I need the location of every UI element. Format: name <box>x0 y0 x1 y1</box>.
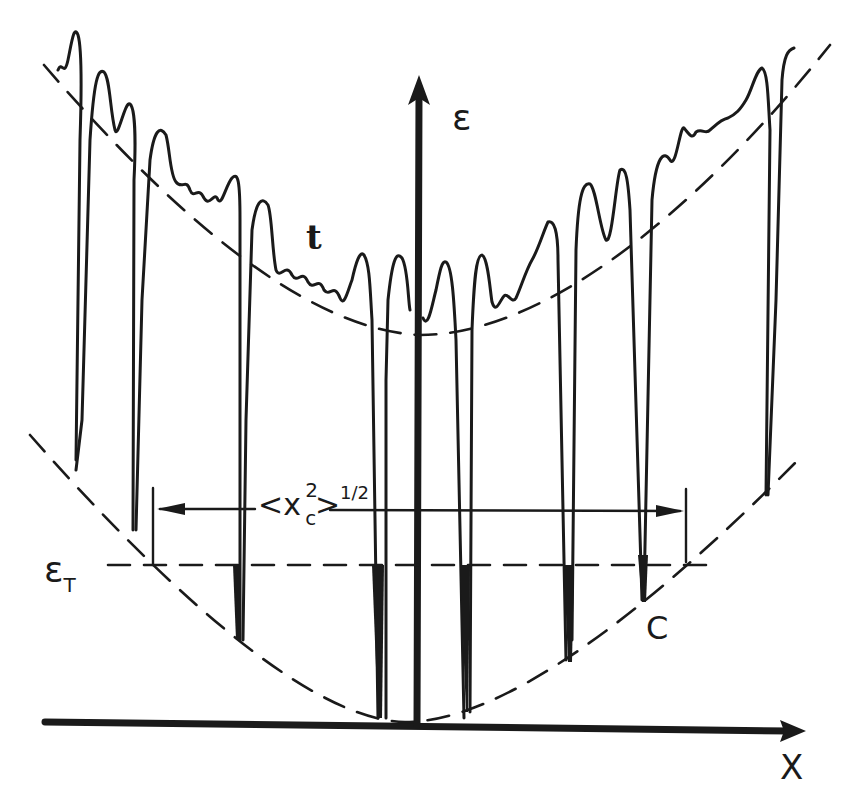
energy-axis <box>408 75 430 725</box>
xc-sup: 2 <box>305 480 318 500</box>
critical-point-label: C <box>646 612 668 644</box>
xc-term: x2c <box>283 490 301 520</box>
xc-var: x <box>283 487 301 522</box>
xc-sub: c <box>305 508 316 528</box>
angle-close: > <box>315 487 340 522</box>
threshold-symbol: ε <box>44 549 63 590</box>
threshold-label: εT <box>44 552 76 588</box>
landscape-trace <box>58 32 794 718</box>
energy-axis-label: ε <box>452 100 471 136</box>
left-arrowhead-icon <box>157 503 185 515</box>
threshold-subscript: T <box>63 573 75 597</box>
right-arrowhead-icon <box>656 505 684 517</box>
trap-wells <box>233 555 648 718</box>
x-axis-label: X <box>780 750 803 784</box>
trap-band-label: t <box>306 220 322 254</box>
x-axis <box>45 720 806 742</box>
angle-open: < <box>258 487 283 522</box>
power-label: 1/2 <box>340 482 369 503</box>
width-measure-label: <x2c>1/2 <box>258 490 369 520</box>
potential-landscape-figure <box>0 0 846 803</box>
